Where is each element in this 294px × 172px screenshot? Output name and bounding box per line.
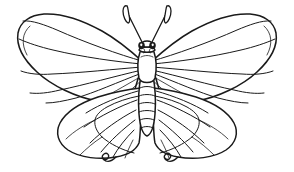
right-antenna xyxy=(152,6,171,42)
head xyxy=(139,41,156,53)
butterfly-illustration: Black and white outline drawing of a sym… xyxy=(0,0,294,172)
left-antenna xyxy=(123,6,142,42)
thorax xyxy=(138,50,156,83)
abdomen xyxy=(139,76,156,136)
left-hindwing xyxy=(58,88,141,158)
right-hindwing xyxy=(153,88,236,158)
drawing-canvas: Black and white outline drawing of a sym… xyxy=(0,0,294,172)
